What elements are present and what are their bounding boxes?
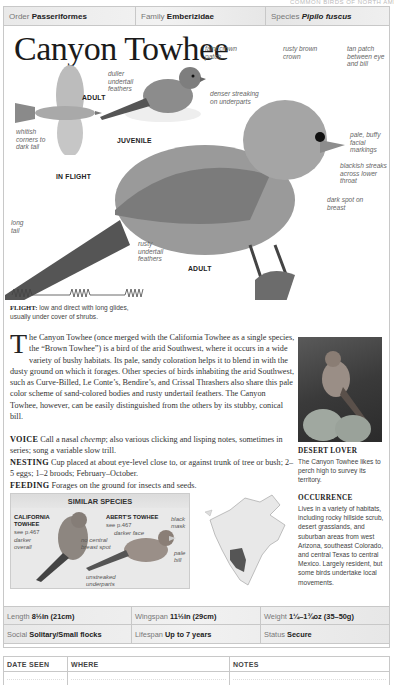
drop-cap: T: [10, 333, 27, 355]
weight-value: 1¼–1¾oz (35–50g): [289, 612, 354, 621]
family-value: Emberizidae: [167, 12, 214, 21]
occurrence-text: Lives in a variety of habitats, includin…: [298, 504, 388, 587]
taxonomy-species: Species Pipilo fuscus: [266, 7, 389, 25]
nesting-label: NESTING: [10, 458, 49, 467]
california-name-line2: TOWHEE: [14, 521, 50, 528]
voice-section: VOICE Call a nasal cheemp; also various …: [10, 434, 295, 457]
similar-species-title: SIMILAR SPECIES: [11, 494, 189, 508]
stat-weight: Weight 1¼–1¾oz (35–50g): [261, 607, 389, 624]
social-label: Social: [7, 630, 27, 639]
similar-species-box: SIMILAR SPECIES CALIFORNIA TOWHEE see p.…: [10, 493, 190, 589]
taxonomy-bar: Order Passeriformes Family Emberizidae S…: [3, 6, 390, 26]
order-value: Passeriformes: [32, 12, 87, 21]
label-darker-face: darker face: [114, 530, 144, 537]
family-label: Family: [141, 12, 165, 21]
nesting-text: Cup placed at about eye-level close to, …: [10, 458, 293, 478]
label-dark-spot: dark spot on breast: [327, 196, 367, 211]
stats-row-size: Length 8½in (21cm) Wingspan 11½in (29cm)…: [4, 607, 389, 625]
taxonomy-order: Order Passeriformes: [4, 7, 136, 25]
flight-label: FLIGHT:: [10, 304, 37, 311]
flight-description: FLIGHT: low and direct with long glides,…: [10, 303, 135, 321]
range-map: [200, 490, 295, 590]
aberts-towhee-tail: [86, 550, 129, 571]
voice-text-before: Call a nasal: [40, 435, 80, 444]
adult-head: [243, 100, 327, 180]
log-header: DATE SEEN WHERE NOTES: [4, 657, 389, 672]
label-faint-crown-patch: faint crown patch: [205, 45, 245, 60]
wingspan-value: 11½in (29cm): [170, 612, 216, 621]
photo-caption: The Canyon Towhee likes to perch high to…: [298, 457, 388, 485]
log-col-notes: NOTES: [230, 657, 389, 671]
label-long-tail: long tail: [11, 219, 33, 234]
species-label: Species: [271, 12, 299, 21]
label-blackish-streaks: blackish streaks across lower throat: [340, 162, 390, 185]
lifespan-value: Up to 7 years: [165, 630, 211, 639]
juvenile-eye: [192, 75, 195, 78]
similar-name-aberts: ABERT’S TOWHEE: [106, 514, 158, 521]
label-black-mask: black mask: [171, 516, 189, 530]
feeding-text: Forages on the ground for insects and se…: [51, 481, 196, 490]
feeding-label: FEEDING: [10, 481, 49, 490]
log-col-date-seen: DATE SEEN: [4, 657, 68, 671]
stats-table: Length 8½in (21cm) Wingspan 11½in (29cm)…: [3, 606, 390, 644]
label-no-central-breast-spot: no central breast spot: [81, 537, 117, 551]
stat-lifespan: Lifespan Up to 7 years: [132, 625, 261, 643]
stat-wingspan: Wingspan 11½in (29cm): [132, 607, 261, 624]
stat-length: Length 8½in (21cm): [4, 607, 132, 624]
length-label: Length: [7, 612, 30, 621]
label-pale-buffy-facial: pale, buffy facial markings: [350, 131, 390, 154]
species-value: Pipilo fuscus: [302, 12, 352, 21]
label-darker-overall: darker overall: [14, 537, 36, 551]
california-page-ref[interactable]: see p.467: [14, 529, 39, 535]
california-towhee-head: [71, 512, 87, 528]
california-towhee-tail: [36, 553, 69, 582]
alaska-outline: [205, 510, 212, 516]
stats-row-behavior: Social Solitary/Small flocks Lifespan Up…: [4, 625, 389, 643]
label-rusty-undertail: rusty undertail feathers: [138, 240, 178, 263]
voice-label: VOICE: [10, 435, 38, 444]
voice-call: cheemp: [80, 435, 105, 444]
desert-lover-photo: [298, 337, 382, 442]
flight-pattern-line: [12, 289, 143, 297]
adult-bill: [320, 140, 345, 153]
log-cell-date[interactable]: [4, 672, 68, 685]
log-cell-notes[interactable]: [230, 672, 389, 685]
similar-name-california: CALIFORNIA TOWHEE: [14, 514, 50, 528]
adult-perch: [255, 271, 295, 300]
taxonomy-family: Family Emberizidae: [136, 7, 266, 25]
weight-label: Weight: [264, 612, 287, 621]
label-tan-patch: tan patch between eye and bill: [347, 45, 387, 68]
aberts-page-ref[interactable]: see p.467: [106, 522, 131, 528]
stat-status: Status Secure: [261, 625, 389, 643]
status-value: Secure: [287, 630, 312, 639]
occurrence-title: OCCURRENCE: [298, 494, 353, 502]
adult-caption: ADULT: [188, 265, 212, 272]
nesting-section: NESTING Cup placed at about eye-level cl…: [10, 457, 295, 480]
sighting-log: DATE SEEN WHERE NOTES: [3, 656, 390, 685]
status-label: Status: [264, 630, 285, 639]
description-text: he Canyon Towhee (once merged with the C…: [10, 333, 294, 421]
log-col-where: WHERE: [68, 657, 230, 671]
flight-pattern-diagram: [10, 285, 145, 301]
stat-social: Social Solitary/Small flocks: [4, 625, 132, 643]
order-label: Order: [9, 12, 29, 21]
length-value: 8½in (21cm): [32, 612, 75, 621]
label-pale-bill: pale bill: [174, 550, 188, 564]
california-name-line1: CALIFORNIA: [14, 514, 50, 521]
social-value: Solitary/Small flocks: [29, 630, 101, 639]
species-description: The Canyon Towhee (once merged with the …: [10, 332, 295, 422]
adult-eye: [315, 132, 325, 142]
log-row: [4, 672, 389, 685]
label-unstreaked-underparts: unstreaked underparts: [86, 574, 126, 588]
wingspan-label: Wingspan: [135, 612, 168, 621]
photo-title: DESERT LOVER: [298, 447, 357, 455]
north-america-outline: [210, 495, 285, 585]
label-rusty-brown-crown: rusty brown crown: [283, 45, 328, 60]
log-cell-where[interactable]: [68, 672, 230, 685]
running-header: COMMON BIRDS OF NORTH AMERICA: [290, 0, 394, 5]
lifespan-label: Lifespan: [135, 630, 163, 639]
photo-bird: [298, 337, 382, 442]
